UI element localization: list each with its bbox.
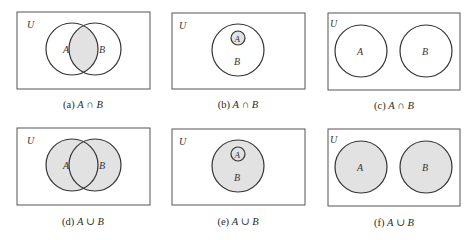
- caption-left-set: A: [387, 217, 393, 228]
- caption-b: (b) A ∩ B: [171, 99, 305, 110]
- caption-left-set: A: [77, 99, 83, 110]
- venn-panel-b: U A B (b) A ∩ B: [171, 12, 311, 124]
- set-a-label: A: [234, 150, 241, 160]
- caption-left-set: A: [232, 216, 238, 227]
- venn-diagram-d: U A B: [16, 127, 152, 207]
- caption-operator: ∩: [86, 99, 94, 110]
- universe-box: [328, 13, 460, 90]
- caption-right-set: B: [408, 100, 414, 111]
- set-b-label: B: [234, 56, 240, 67]
- venn-diagram-e: U A B: [171, 128, 307, 208]
- caption-right-set: B: [97, 216, 103, 227]
- caption-a: (a) A ∩ B: [16, 99, 150, 110]
- caption-e: (e) A ∪ B: [171, 215, 305, 227]
- set-b-label: B: [422, 162, 428, 173]
- caption-operator: ∪: [86, 216, 95, 227]
- venn-panel-f: U A B (f) A ∪ B: [327, 128, 467, 240]
- set-a-label: A: [62, 160, 70, 171]
- universe-label: U: [179, 136, 187, 147]
- caption-right-set: B: [252, 99, 258, 110]
- venn-diagram-b: U A B: [171, 12, 307, 92]
- caption-left-set: A: [233, 99, 239, 110]
- universe-label: U: [27, 135, 35, 146]
- caption-prefix: (f): [374, 217, 385, 228]
- set-b-label: B: [422, 46, 428, 57]
- caption-prefix: (e): [217, 216, 229, 227]
- universe-label: U: [179, 20, 187, 31]
- venn-panel-a: U A B (a) A ∩ B: [16, 11, 156, 123]
- caption-right-set: B: [97, 99, 103, 110]
- caption-prefix: (d): [62, 216, 74, 227]
- set-a-label: A: [62, 44, 70, 55]
- caption-operator: ∩: [242, 99, 250, 110]
- set-a-label: A: [234, 34, 241, 44]
- caption-right-set: B: [408, 217, 414, 228]
- set-b-label: B: [99, 44, 105, 55]
- caption-prefix: (c): [374, 100, 386, 111]
- universe-label: U: [330, 134, 338, 145]
- caption-operator: ∪: [241, 216, 250, 227]
- set-b-label: B: [234, 172, 240, 183]
- caption-f: (f) A ∪ B: [327, 216, 461, 228]
- caption-operator: ∩: [397, 100, 405, 111]
- caption-prefix: (b): [218, 99, 230, 110]
- set-a-label: A: [356, 46, 364, 57]
- venn-panel-e: U A B (e) A ∪ B: [171, 128, 311, 240]
- caption-operator: ∪: [396, 217, 405, 228]
- caption-right-set: B: [252, 216, 258, 227]
- universe-label: U: [27, 19, 35, 30]
- venn-panel-d: U A B (d) A ∪ B: [16, 127, 156, 239]
- set-a-label: A: [356, 162, 364, 173]
- caption-prefix: (a): [63, 99, 75, 110]
- caption-c: (c) A ∩ B: [327, 100, 461, 111]
- caption-d: (d) A ∪ B: [16, 215, 150, 227]
- universe-label: U: [330, 18, 338, 29]
- caption-left-set: A: [77, 216, 83, 227]
- venn-diagram-a: U A B: [16, 11, 152, 91]
- venn-panel-c: U A B (c) A ∩ B: [327, 12, 467, 124]
- venn-diagram-c: U A B: [327, 12, 463, 92]
- caption-left-set: A: [388, 100, 394, 111]
- set-b-label: B: [99, 160, 105, 171]
- venn-diagram-f: U A B: [327, 128, 463, 208]
